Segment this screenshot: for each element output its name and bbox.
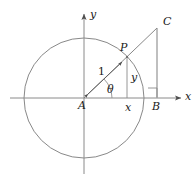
side-x-label: x — [125, 102, 131, 113]
side-y-label: y — [131, 72, 137, 83]
point-A-label: A — [78, 100, 86, 111]
y-axis-label: y — [90, 9, 96, 20]
radius-measure-arrow — [88, 62, 122, 94]
angle-theta-label: θ — [107, 84, 114, 95]
geometry-figure: y x C P 1 θ y A x B — [0, 0, 196, 183]
point-P-marker — [126, 56, 128, 58]
right-angle-marker-B — [148, 88, 157, 97]
point-C-label: C — [163, 16, 171, 27]
radius-length-label: 1 — [98, 66, 105, 77]
point-B-label: B — [152, 101, 160, 112]
point-P-label: P — [120, 42, 127, 53]
x-axis-label: x — [185, 91, 191, 102]
